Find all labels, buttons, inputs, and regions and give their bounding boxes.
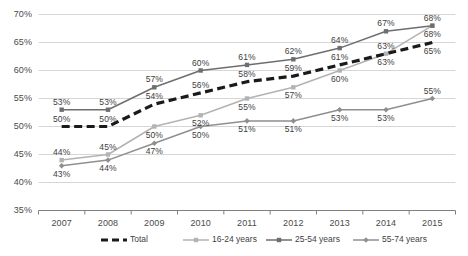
data-point-marker [430, 24, 434, 28]
x-tick-label: 2013 [316, 218, 364, 228]
data-point-marker [59, 163, 65, 169]
point-label: 53% [326, 113, 354, 123]
point-label: 53% [372, 113, 400, 123]
legend-label: 25-54 years [295, 232, 340, 246]
point-label: 67% [372, 18, 400, 28]
data-point-marker [384, 52, 388, 56]
legend-swatch-icon [100, 235, 128, 245]
data-point-marker [152, 85, 156, 89]
y-tick-label: 40% [0, 177, 32, 187]
point-label: 60% [187, 58, 215, 68]
data-point-marker [291, 85, 295, 89]
point-label: 61% [326, 52, 354, 62]
point-label: 53% [94, 97, 122, 107]
x-tick-label: 2010 [177, 218, 225, 228]
legend-swatch-icon [265, 235, 293, 245]
legend-swatch-icon [352, 235, 380, 245]
point-label: 52% [187, 118, 215, 128]
point-label: 68% [418, 29, 446, 39]
y-tick-label: 65% [0, 37, 32, 47]
point-label: 50% [94, 114, 122, 124]
legend-label: 16-24 years [212, 232, 257, 246]
point-label: 58% [233, 69, 261, 79]
point-label: 64% [326, 35, 354, 45]
point-label: 44% [94, 163, 122, 173]
point-label: 50% [48, 114, 76, 124]
data-point-marker [152, 141, 158, 147]
data-point-marker [59, 158, 63, 162]
data-point-marker [106, 152, 110, 156]
point-label: 56% [187, 80, 215, 90]
data-point-marker [430, 96, 436, 102]
legend-label: Total [130, 232, 148, 246]
data-point-marker [337, 68, 341, 72]
legend-swatch-icon [182, 235, 210, 245]
point-label: 54% [140, 91, 168, 101]
data-point-marker [291, 57, 295, 61]
point-label: 57% [279, 90, 307, 100]
data-point-marker [245, 63, 249, 67]
data-point-marker [337, 107, 343, 113]
point-label: 68% [418, 13, 446, 23]
axes [39, 211, 456, 215]
y-tick-label: 55% [0, 93, 32, 103]
y-tick-label: 70% [0, 9, 32, 19]
data-point-marker [59, 108, 63, 112]
point-label: 63% [372, 41, 400, 51]
point-label: 45% [94, 142, 122, 152]
x-tick-label: 2015 [408, 218, 456, 228]
point-label: 63% [372, 57, 400, 67]
y-tick-label: 60% [0, 65, 32, 75]
data-point-marker [106, 108, 110, 112]
point-label: 50% [187, 130, 215, 140]
data-point-marker [384, 29, 388, 33]
point-label: 53% [48, 97, 76, 107]
x-tick-label: 2012 [269, 218, 317, 228]
chart-legend: Total16-24 years25-54 years55-74 years [0, 232, 468, 252]
x-tick-label: 2007 [38, 218, 86, 228]
point-label: 62% [279, 46, 307, 56]
data-point-marker [337, 46, 341, 50]
data-point-marker [383, 107, 389, 113]
data-point-marker [291, 118, 297, 124]
x-tick-label: 2014 [362, 218, 410, 228]
point-label: 55% [418, 86, 446, 96]
point-label: 65% [418, 46, 446, 56]
x-tick-label: 2009 [130, 218, 178, 228]
y-tick-label: 50% [0, 121, 32, 131]
point-label: 60% [326, 74, 354, 84]
data-point-marker [198, 113, 202, 117]
line-chart: 35%40%45%50%55%60%65%70% 200720082009201… [0, 0, 468, 256]
point-label: 43% [48, 169, 76, 179]
x-tick-label: 2008 [84, 218, 132, 228]
data-point-marker [245, 96, 249, 100]
y-tick-label: 35% [0, 205, 32, 215]
point-label: 47% [140, 146, 168, 156]
x-tick-label: 2011 [223, 218, 271, 228]
y-tick-label: 45% [0, 149, 32, 159]
data-point-marker [244, 118, 250, 124]
point-label: 59% [279, 63, 307, 73]
data-point-marker [152, 124, 156, 128]
point-label: 51% [279, 124, 307, 134]
legend-label: 55-74 years [382, 232, 427, 246]
point-label: 44% [48, 147, 76, 157]
point-label: 51% [233, 124, 261, 134]
point-label: 50% [140, 130, 168, 140]
point-label: 57% [140, 74, 168, 84]
data-point-marker [105, 157, 111, 163]
point-label: 61% [233, 52, 261, 62]
data-point-marker [198, 68, 202, 72]
point-label: 55% [233, 102, 261, 112]
